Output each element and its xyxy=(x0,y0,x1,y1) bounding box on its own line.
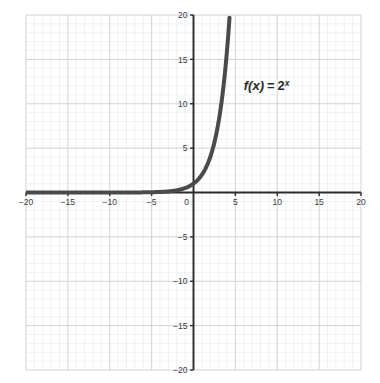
y-tick-label: −10 xyxy=(173,276,188,286)
x-tick-label: −20 xyxy=(19,197,34,207)
x-tick-label: 20 xyxy=(356,197,366,207)
origin-label: 0 xyxy=(184,197,189,207)
y-tick-label: −20 xyxy=(173,365,188,375)
function-label-text: f(x)=2x xyxy=(244,78,291,94)
function-label-annotation: f(x)=2x xyxy=(244,78,291,94)
y-tick-label: 5 xyxy=(183,143,188,153)
origin-tick-label: 0 xyxy=(184,197,189,207)
x-tick-label: −15 xyxy=(61,197,76,207)
y-tick-label: 10 xyxy=(178,99,188,109)
x-tick-label: −10 xyxy=(103,197,118,207)
x-tick-label: 15 xyxy=(314,197,324,207)
y-tick-label: −5 xyxy=(178,232,188,242)
x-tick-label: 5 xyxy=(233,197,238,207)
y-tick-label: 20 xyxy=(178,10,188,20)
x-tick-label: 10 xyxy=(273,197,283,207)
y-tick-label: −15 xyxy=(173,321,188,331)
y-tick-label: 15 xyxy=(178,55,188,65)
x-tick-label: −5 xyxy=(147,197,157,207)
cartesian-plot: −20−15−10−55101520 −20−15−10−55101520 0 … xyxy=(0,0,380,383)
graph-figure: −20−15−10−55101520 −20−15−10−55101520 0 … xyxy=(0,0,380,383)
